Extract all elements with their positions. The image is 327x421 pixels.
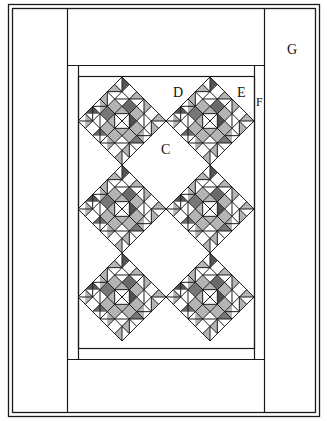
label-g: G <box>287 42 297 57</box>
block-row-1-col-1 <box>78 77 166 165</box>
label-c: C <box>161 142 170 157</box>
block-row-3-col-1 <box>78 253 166 341</box>
block-row-3-col-2 <box>166 253 254 341</box>
quilt-diagram: C D E F G <box>0 0 327 421</box>
label-e: E <box>237 85 246 100</box>
label-d: D <box>173 85 183 100</box>
block-row-2-col-2 <box>166 165 254 253</box>
block-row-2-col-1 <box>78 165 166 253</box>
label-f: F <box>256 95 263 109</box>
